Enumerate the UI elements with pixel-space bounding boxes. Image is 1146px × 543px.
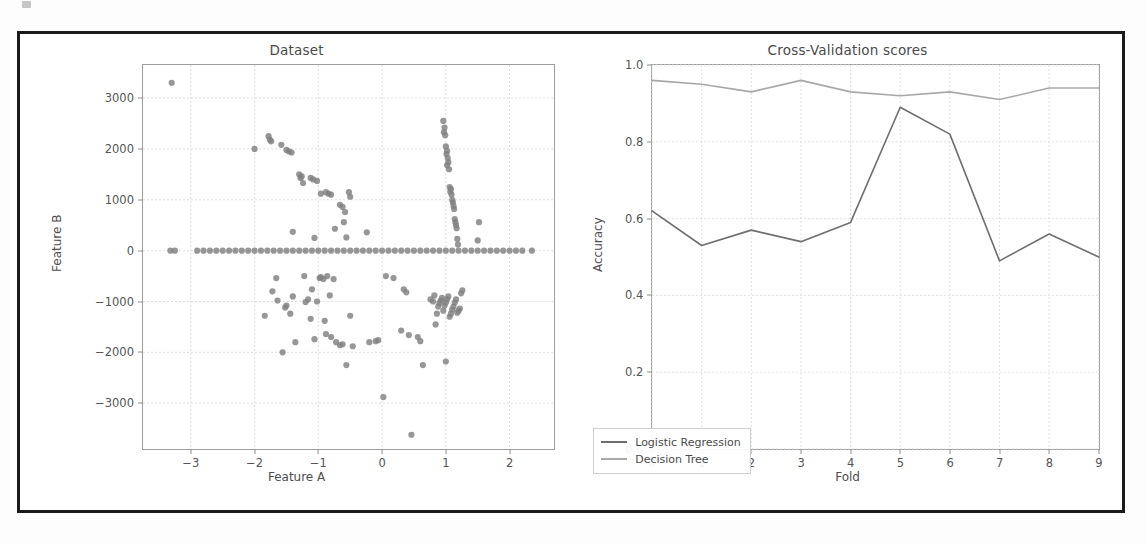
y-tick-label: 1000 xyxy=(105,193,134,207)
y-tick-label: 2000 xyxy=(105,142,134,156)
axis-label-feature-b: Feature B xyxy=(50,215,64,272)
y-tick-label: 0.4 xyxy=(625,288,643,302)
y-tick-mark xyxy=(138,352,143,353)
x-tick-label: 2 xyxy=(506,456,513,470)
x-tick-mark xyxy=(382,449,383,454)
y-tick-label: 0.8 xyxy=(625,135,643,149)
y-tick-label: 1.0 xyxy=(625,58,643,72)
x-tick-label: 4 xyxy=(847,456,854,470)
chart-title-cv-scores: Cross-Validation scores xyxy=(573,42,1122,58)
x-tick-mark xyxy=(1098,449,1099,454)
x-tick-label: 1 xyxy=(442,456,449,470)
x-tick-mark xyxy=(1049,449,1050,454)
y-tick-mark xyxy=(138,250,143,251)
y-tick-mark xyxy=(138,301,143,302)
figure-frame: Dataset Feature B 3000200010000−1000−200… xyxy=(17,31,1125,513)
x-tick-mark xyxy=(190,449,191,454)
x-tick-label: −3 xyxy=(182,456,199,470)
x-tick-label: −1 xyxy=(310,456,327,470)
legend-item-label: Decision Tree xyxy=(635,451,708,468)
legend-item[interactable]: Logistic Regression xyxy=(601,434,741,451)
axes-dataset: 3000200010000−1000−2000−3000−3−2−1012 xyxy=(142,64,555,450)
x-tick-label: 5 xyxy=(897,456,904,470)
x-tick-mark xyxy=(950,449,951,454)
x-tick-label: 0 xyxy=(378,456,385,470)
y-tick-mark xyxy=(647,295,652,296)
legend-line-swatch xyxy=(601,458,627,460)
y-tick-mark xyxy=(647,218,652,219)
axis-label-accuracy: Accuracy xyxy=(591,217,605,272)
line-plot-area xyxy=(652,65,1099,449)
axes-cv-scores: 1.00.80.60.40.20.00123456789 xyxy=(651,64,1100,450)
legend-item-label: Logistic Regression xyxy=(635,434,741,451)
scan-artifact xyxy=(22,1,31,8)
panel-dataset-scatter: Dataset Feature B 3000200010000−1000−200… xyxy=(20,34,573,510)
y-tick-label: −2000 xyxy=(95,345,134,359)
panel-cv-scores: Cross-Validation scores Accuracy 1.00.80… xyxy=(573,34,1122,510)
x-tick-label: 3 xyxy=(797,456,804,470)
y-tick-label: 3000 xyxy=(105,91,134,105)
x-tick-mark xyxy=(900,449,901,454)
x-tick-label: 9 xyxy=(1095,456,1102,470)
x-tick-label: 8 xyxy=(1046,456,1053,470)
legend-line-swatch xyxy=(601,441,627,443)
y-tick-label: 0 xyxy=(127,244,134,258)
x-tick-mark xyxy=(999,449,1000,454)
y-tick-label: 0.6 xyxy=(625,212,643,226)
x-tick-label: 6 xyxy=(946,456,953,470)
y-tick-mark xyxy=(138,148,143,149)
figure-canvas: Dataset Feature B 3000200010000−1000−200… xyxy=(0,0,1146,543)
y-tick-mark xyxy=(138,199,143,200)
y-tick-label: −1000 xyxy=(95,295,134,309)
legend-cv-scores: Logistic RegressionDecision Tree xyxy=(593,428,751,474)
y-tick-label: 0.2 xyxy=(625,365,643,379)
x-tick-mark xyxy=(318,449,319,454)
y-tick-mark xyxy=(647,65,652,66)
chart-title-dataset: Dataset xyxy=(20,42,573,58)
x-tick-mark xyxy=(509,449,510,454)
x-tick-mark xyxy=(751,449,752,454)
x-tick-mark xyxy=(801,449,802,454)
y-tick-mark xyxy=(647,141,652,142)
x-tick-mark xyxy=(254,449,255,454)
axis-label-fold: Fold xyxy=(573,470,1122,484)
axis-label-feature-a: Feature A xyxy=(20,470,573,484)
legend-item[interactable]: Decision Tree xyxy=(601,451,741,468)
x-tick-label: 7 xyxy=(996,456,1003,470)
y-tick-label: −3000 xyxy=(95,396,134,410)
scatter-plot-area xyxy=(143,65,554,449)
y-tick-mark xyxy=(138,403,143,404)
x-tick-label: −2 xyxy=(246,456,263,470)
x-tick-mark xyxy=(445,449,446,454)
y-tick-mark xyxy=(647,372,652,373)
y-tick-mark xyxy=(138,98,143,99)
x-tick-mark xyxy=(850,449,851,454)
